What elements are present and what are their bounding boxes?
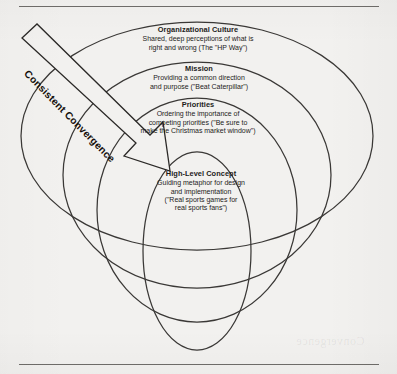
ring-title-organizational-culture: Organizational Culture: [120, 26, 276, 35]
ring-label-high-level-concept: High-Level Concept Guiding metaphor for …: [140, 170, 262, 212]
ring-desc-priorities-line-2: competing priorities ("Be sure to: [118, 119, 278, 127]
ring-desc-priorities-line-1: Ordering the importance of: [118, 110, 278, 118]
page-rule-top: [19, 6, 379, 7]
ring-label-priorities: Priorities Ordering the importance of co…: [118, 101, 278, 135]
ring-desc-priorities-line-3: make the Christmas market window"): [118, 127, 278, 135]
ring-title-priorities: Priorities: [118, 101, 278, 110]
ring-desc-high-level-concept-line-1: Guiding metaphor for design: [140, 179, 262, 187]
ring-desc-mission-line-1: Providing a common direction: [126, 74, 272, 82]
ring-label-organizational-culture: Organizational Culture Shared, deep perc…: [120, 26, 276, 52]
ring-desc-high-level-concept-line-2: and implementation: [140, 188, 262, 196]
ring-desc-high-level-concept-line-3: ("Real sports games for: [140, 196, 262, 204]
ring-label-mission: Mission Providing a common direction and…: [126, 65, 272, 91]
ring-desc-high-level-concept-line-4: real sports fans"): [140, 204, 262, 212]
ring-title-high-level-concept: High-Level Concept: [140, 170, 262, 179]
ring-title-mission: Mission: [126, 65, 272, 74]
ring-desc-organizational-culture-line-1: Shared, deep perceptions of what is: [120, 35, 276, 43]
figure-root: Convergence Consistent Convergence Organ…: [0, 0, 397, 374]
ring-desc-organizational-culture-line-2: right and wrong (The "HP Way"): [120, 44, 276, 52]
ring-desc-mission-line-2: and purpose ("Beat Caterpillar"): [126, 83, 272, 91]
page-rule-bottom: [19, 364, 379, 365]
ring-outline-organizational-culture: [21, 22, 373, 250]
